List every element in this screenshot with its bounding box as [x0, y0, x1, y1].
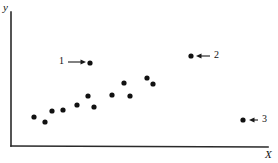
data-point — [87, 60, 92, 65]
annotation-label-2: 2 — [214, 50, 219, 60]
data-point — [109, 92, 114, 97]
data-point — [49, 108, 54, 113]
scatter-plot-figure: y X 1 2 3 — [0, 0, 278, 163]
annotation-arrows-group — [68, 54, 258, 123]
data-point — [60, 107, 65, 112]
plot-canvas — [0, 0, 278, 163]
data-point — [91, 104, 96, 109]
annotation-1-arrow-head — [81, 60, 87, 65]
data-point — [42, 119, 47, 124]
data-point — [144, 75, 149, 80]
data-point — [188, 53, 193, 58]
data-point — [127, 93, 132, 98]
data-point — [150, 81, 155, 86]
data-point — [85, 93, 90, 98]
x-axis-line — [11, 146, 268, 147]
annotation-label-1: 1 — [59, 56, 64, 66]
annotation-2-arrow-head — [196, 54, 202, 59]
annotation-label-3: 3 — [262, 114, 267, 124]
axes-group — [11, 12, 268, 147]
x-axis-label: X — [265, 149, 272, 160]
data-point — [31, 114, 36, 119]
y-axis-label: y — [3, 2, 8, 13]
data-point — [240, 117, 245, 122]
annotation-3-arrow-head — [249, 118, 255, 123]
data-point — [121, 80, 126, 85]
data-point — [74, 102, 79, 107]
